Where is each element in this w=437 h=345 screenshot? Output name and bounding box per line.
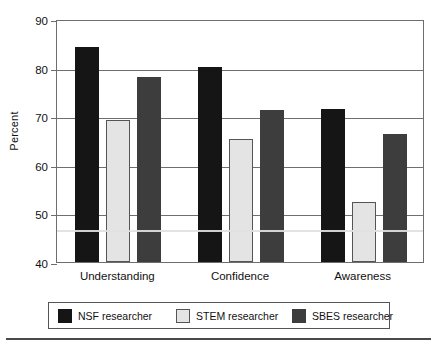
bar bbox=[383, 134, 407, 262]
legend-label: NSF researcher bbox=[78, 310, 152, 322]
bar bbox=[321, 109, 345, 262]
legend-swatch-icon bbox=[176, 309, 190, 323]
y-tick-mark-40 bbox=[51, 264, 57, 265]
y-tick-label-40: 40 bbox=[35, 258, 48, 270]
plot-frame: 908070605040 bbox=[56, 20, 424, 263]
legend-label: STEM researcher bbox=[196, 310, 278, 322]
plot-area: Percent 908070605040 UnderstandingConfid… bbox=[0, 0, 437, 290]
bar-group bbox=[321, 21, 407, 262]
bar bbox=[75, 47, 99, 262]
legend-item: NSF researcher bbox=[58, 309, 152, 323]
y-axis-title: Percent bbox=[8, 86, 20, 176]
legend-swatch-icon bbox=[58, 309, 72, 323]
bars-layer bbox=[57, 21, 423, 262]
bar bbox=[106, 120, 130, 262]
legend-label: SBES researcher bbox=[312, 310, 393, 322]
legend-item: SBES researcher bbox=[292, 309, 393, 323]
x-tick-label: Awareness bbox=[334, 270, 391, 282]
bar-chart-figure: Percent 908070605040 UnderstandingConfid… bbox=[0, 0, 437, 345]
legend-swatch-icon bbox=[292, 309, 306, 323]
y-tick-label-50: 50 bbox=[35, 209, 48, 221]
chart-legend: NSF researcherSTEM researcherSBES resear… bbox=[48, 302, 390, 329]
bar bbox=[198, 67, 222, 262]
bar bbox=[352, 202, 376, 262]
y-tick-label-80: 80 bbox=[35, 64, 48, 76]
legend-item: STEM researcher bbox=[176, 309, 278, 323]
bar bbox=[260, 110, 284, 262]
bar bbox=[229, 139, 253, 262]
bar-group bbox=[75, 21, 161, 262]
x-tick-label: Understanding bbox=[80, 270, 155, 282]
y-tick-label-90: 90 bbox=[35, 15, 48, 27]
y-tick-label-70: 70 bbox=[35, 112, 48, 124]
bar bbox=[137, 77, 161, 262]
bar-group bbox=[198, 21, 284, 262]
page-bottom-rule bbox=[6, 338, 431, 340]
x-tick-label: Confidence bbox=[211, 270, 269, 282]
y-tick-label-60: 60 bbox=[35, 161, 48, 173]
